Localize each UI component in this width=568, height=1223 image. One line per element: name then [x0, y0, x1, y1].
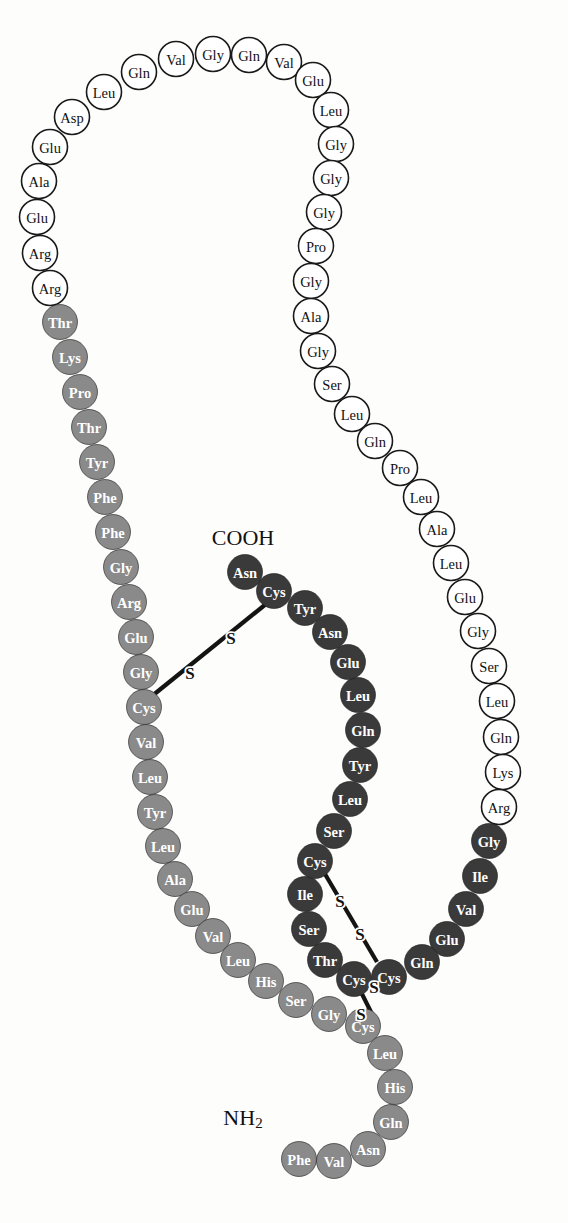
residue-circle [129, 725, 164, 760]
residue-c-peptide-left-8-gln: Gln [122, 55, 157, 90]
residue-a-chain-9-ser: Ser [292, 912, 327, 947]
residue-c-peptide-left-1-arg: Arg [33, 271, 68, 306]
residue-circle [346, 713, 381, 748]
residue-circle [472, 649, 507, 684]
residue-b-chain-22-ser: Ser [279, 983, 314, 1018]
residue-circle [308, 943, 343, 978]
residue-circle [249, 964, 284, 999]
residue-b-chain-14-leu: Leu [133, 760, 168, 795]
residue-a-chain-21-asn: Asn [228, 555, 263, 590]
residue-circle [463, 859, 498, 894]
residue-circle [341, 678, 376, 713]
residue-b-chain-27-gln: Gln [374, 1105, 409, 1140]
residue-circle [296, 63, 331, 98]
residue-circle [43, 305, 78, 340]
residue-a-chain-16-leu: Leu [341, 678, 376, 713]
ss-b19-a20-sulfur-label-2: S [356, 1005, 365, 1024]
residue-circle [22, 164, 57, 199]
residue-circle [221, 943, 256, 978]
residue-circle [368, 1036, 403, 1071]
residue-c-peptide-left-4-ala: Ala [22, 164, 57, 199]
residue-circle [119, 620, 154, 655]
residue-circle [378, 1070, 413, 1105]
residue-circle [315, 367, 350, 402]
residue-circle [314, 93, 349, 128]
residue-circle [96, 515, 131, 550]
residue-circle [461, 614, 496, 649]
residue-circle [88, 480, 123, 515]
residue-circle [486, 755, 521, 790]
residue-a-chain-11-cys: Cys [298, 844, 333, 879]
residue-circle [314, 161, 349, 196]
residue-circle [288, 877, 323, 912]
residue-circle [333, 782, 368, 817]
residue-circle [337, 962, 372, 997]
residue-c-peptide-left-11-gln: Gln [232, 38, 267, 73]
residue-circle [159, 42, 194, 77]
residue-a-chain-17-glu: Glu [331, 645, 366, 680]
residue-b-chain-1-thr: Thr [43, 305, 78, 340]
residue-a-chain-3-val: Val [449, 892, 484, 927]
residue-circle [405, 945, 440, 980]
residue-circle [358, 424, 393, 459]
residue-c-peptide-left-25-pro: Pro [383, 451, 418, 486]
residue-circle [138, 795, 173, 830]
residue-c-peptide-left-19-gly: Gly [294, 264, 329, 299]
residue-circle [434, 546, 469, 581]
residue-circle [449, 892, 484, 927]
residue-c-peptide-left-14-leu: Leu [314, 93, 349, 128]
residue-circle [33, 130, 68, 165]
residue-circle [383, 451, 418, 486]
residue-circle [127, 690, 162, 725]
residue-circle [331, 645, 366, 680]
residue-b-chain-8-gly: Gly [104, 550, 139, 585]
residue-circle [232, 38, 267, 73]
residue-b-chain-28-asn: Asn [351, 1132, 386, 1167]
residue-circle [80, 445, 115, 480]
terminal-label-nh2: NH2 [223, 1105, 262, 1132]
residue-circle [196, 37, 231, 72]
residue-c-peptide-left-28-leu: Leu [434, 546, 469, 581]
residue-a-chain-15-gln: Gln [346, 713, 381, 748]
ss-a6-a11-sulfur-label-2: S [355, 925, 364, 944]
residue-c-peptide-left-31-ser: Ser [472, 649, 507, 684]
residue-circle [484, 720, 519, 755]
residue-circle [448, 580, 483, 615]
residue-c-peptide-left-24-gln: Gln [358, 424, 393, 459]
residue-c-peptide-left-16-gly: Gly [314, 161, 349, 196]
residue-circle [104, 550, 139, 585]
residue-circle [301, 334, 336, 369]
residue-b-chain-11-gly: Gly [124, 655, 159, 690]
residue-c-peptide-left-13-glu: Glu [296, 63, 331, 98]
residue-circle [294, 299, 329, 334]
residue-a-chain-1-gly: Gly [472, 824, 507, 859]
terminal-subscript-nh2: 2 [255, 1115, 263, 1131]
residue-c-peptide-left-18-pro: Pro [299, 229, 334, 264]
residue-c-peptide-left-7-leu: Leu [87, 75, 122, 110]
residue-b-chain-15-tyr: Tyr [138, 795, 173, 830]
ss-b7-a7-sulfur-label-1: S [185, 664, 194, 683]
residue-circle [374, 1105, 409, 1140]
residue-a-chain-5-gln: Gln [405, 945, 440, 980]
residue-c-peptide-left-9-val: Val [159, 42, 194, 77]
residue-circle [317, 1144, 352, 1179]
residue-b-chain-23-gly: Gly [312, 997, 347, 1032]
ss-b7-a7-sulfur-label-2: S [226, 629, 235, 648]
residue-c-peptide-left-2-arg: Arg [23, 236, 58, 271]
residue-circle [294, 264, 329, 299]
terminal-labels-layer: COOHNH2 [212, 525, 274, 1132]
residue-b-chain-17-ala: Ala [158, 862, 193, 897]
residue-b-chain-7-phe: Phe [96, 515, 131, 550]
residue-b-chain-26-his: His [378, 1070, 413, 1105]
residue-c-peptide-left-21-gly: Gly [301, 334, 336, 369]
residue-a-chain-12-ser: Ser [317, 814, 352, 849]
residue-circle [299, 229, 334, 264]
proinsulin-diagram: ArgArgGluAlaGluAspLeuGlnValGlyGlnValGluL… [0, 0, 568, 1223]
residue-circle [55, 100, 90, 135]
residue-a-chain-8-thr: Thr [308, 943, 343, 978]
residue-c-peptide-left-17-gly: Gly [307, 195, 342, 230]
residue-b-chain-21-his: His [249, 964, 284, 999]
residue-b-chain-4-thr: Thr [72, 410, 107, 445]
residue-c-peptide-left-33-gln: Gln [484, 720, 519, 755]
residue-a-chain-7-cys: Cys [337, 962, 372, 997]
